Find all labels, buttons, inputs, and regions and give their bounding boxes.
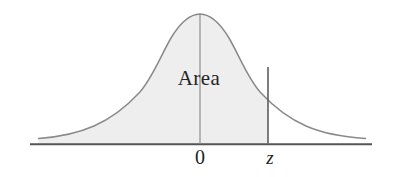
x-axis-tick-label-zero: 0 [180, 147, 220, 167]
normal-distribution-figure: Area 0 z [0, 0, 398, 177]
area-label: Area [0, 68, 398, 89]
x-axis-tick-label-z: z [250, 148, 290, 167]
